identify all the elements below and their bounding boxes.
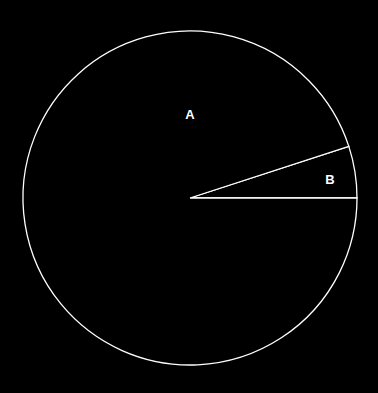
pie-slices (23, 31, 357, 365)
slice-label-b: B (325, 172, 334, 187)
pie-chart: A B (0, 0, 378, 393)
slice-label-a: A (185, 107, 195, 122)
pie-slice-a (23, 31, 357, 365)
